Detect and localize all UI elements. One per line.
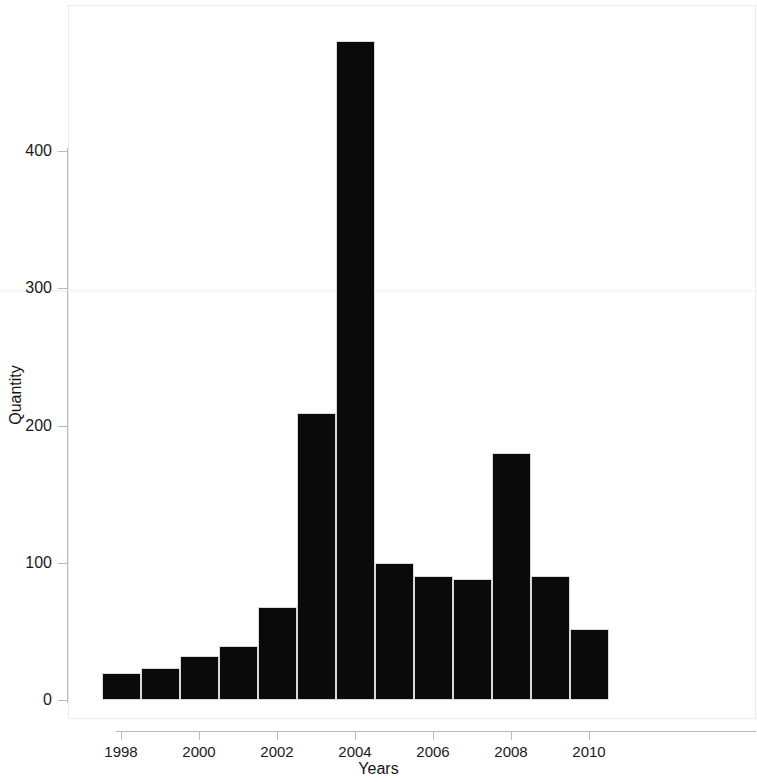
bar — [570, 629, 609, 700]
bar — [297, 413, 336, 700]
y-axis-tick — [58, 700, 67, 701]
y-axis-tick — [58, 151, 67, 152]
bar — [414, 576, 453, 700]
bar — [141, 668, 180, 700]
y-axis-tick-label: 400 — [0, 143, 52, 159]
x-axis-tick-label: 2010 — [554, 744, 624, 759]
y-axis-tick — [58, 426, 67, 427]
bar — [336, 41, 375, 700]
x-axis-tick — [199, 731, 200, 740]
y-axis-line — [67, 148, 68, 703]
bar — [375, 563, 414, 700]
y-axis-title: Quantity — [7, 335, 25, 455]
bar — [492, 453, 531, 700]
x-axis-tick — [511, 731, 512, 740]
bar-chart-figure: 0100200300400 19982000200220042006200820… — [0, 0, 757, 782]
x-axis-tick — [277, 731, 278, 740]
x-axis-tick-label: 2002 — [242, 744, 312, 759]
y-axis-tick-label: 100 — [0, 555, 52, 571]
y-axis-tick-label: 300 — [0, 280, 52, 296]
x-axis-tick — [121, 731, 122, 740]
bar — [258, 607, 297, 700]
plot-area — [68, 5, 756, 700]
x-axis-tick-label: 2000 — [164, 744, 234, 759]
bar — [453, 579, 492, 700]
bar — [180, 656, 219, 700]
x-axis-tick — [589, 731, 590, 740]
y-axis-tick — [58, 288, 67, 289]
y-axis-tick-label: 0 — [0, 692, 52, 708]
bar — [531, 576, 570, 700]
x-axis-tick-label: 2006 — [398, 744, 468, 759]
x-axis-title: Years — [0, 760, 757, 778]
x-axis-tick — [433, 731, 434, 740]
x-axis-tick-label: 1998 — [86, 744, 156, 759]
x-axis-tick-label: 2004 — [320, 744, 390, 759]
bar — [219, 646, 258, 700]
y-axis-tick — [58, 563, 67, 564]
x-axis-tick — [355, 731, 356, 740]
x-axis-tick-label: 2008 — [476, 744, 546, 759]
bar — [102, 673, 141, 700]
x-axis-line — [116, 731, 756, 732]
